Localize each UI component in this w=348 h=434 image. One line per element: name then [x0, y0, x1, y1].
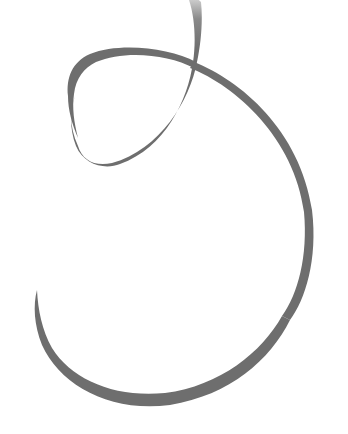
ribbon-bottom-curve — [35, 290, 290, 406]
ribbon-illustration — [0, 0, 348, 434]
ribbon-left-loop — [68, 48, 196, 138]
illustration-canvas — [0, 0, 348, 434]
ribbon-top-strand — [71, 0, 202, 166]
ribbon-right-strand — [190, 62, 313, 320]
